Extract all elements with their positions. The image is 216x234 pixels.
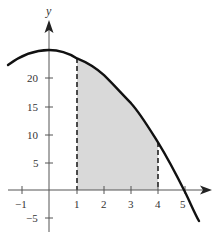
y-tick-label: 20: [27, 72, 39, 84]
y-tick-label: 10: [27, 129, 39, 141]
x-tick-label: 2: [101, 198, 107, 210]
x-tick-label: 1: [74, 198, 80, 210]
x-tick-label: 5: [180, 198, 186, 210]
x-tick-label: −1: [15, 198, 27, 210]
x-tick-label: 4: [155, 198, 161, 210]
y-tick-label: 5: [33, 157, 39, 169]
x-tick-label: 3: [128, 198, 134, 210]
y-tick-label: 15: [27, 101, 39, 113]
y-axis-label: y: [45, 4, 52, 18]
y-tick-label: −5: [26, 212, 38, 224]
chart: y −1 1 2 3 4 5 20 15 10 5 −5: [0, 0, 216, 234]
